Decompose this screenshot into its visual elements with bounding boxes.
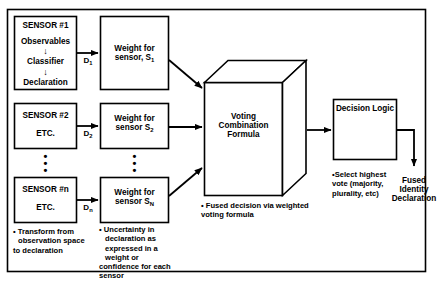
sensor-n-title: SENSOR #n — [15, 185, 76, 194]
arrow-weight-n-to-fusion — [169, 168, 202, 196]
fusion-line-1: Voting — [205, 112, 282, 121]
note-uncertainty-bullet: • — [99, 225, 102, 234]
weight-2-line-1: Weight for — [101, 114, 168, 123]
note-transform-line-3: to declaration — [13, 246, 63, 255]
sensor-n-content: SENSOR #n ETC. — [15, 185, 76, 212]
note-select-line-1: Select highest — [335, 170, 386, 179]
arrow-weight-1-to-fusion — [169, 60, 202, 88]
note-uncertainty-line-1: Uncertainty in — [104, 225, 155, 234]
weight-n-line-1: Weight for — [101, 188, 168, 197]
note-select-line-3: plurality, etc) — [332, 189, 379, 198]
note-uncertainty: • Uncertainty in declaration as expresse… — [99, 225, 194, 281]
note-transform-line-2: observation space — [13, 236, 85, 245]
arrow-decision-logic-to-output — [397, 130, 414, 166]
weight-1-line-1: Weight for — [101, 44, 168, 53]
fusion-line-2: Combination — [205, 121, 282, 130]
sensor-1-line-3: Declaration — [15, 78, 76, 87]
sensor-1-line-2: Classifier — [15, 57, 76, 66]
note-select-highest: •Select highest vote (majority, pluralit… — [332, 170, 404, 198]
note-fused-line-2: voting formula — [201, 210, 254, 219]
down-arrow-icon-2: ↓ — [15, 68, 76, 77]
down-arrow-icon: ↓ — [15, 47, 76, 56]
sensor-2-line-1: ETC. — [15, 129, 76, 138]
signal-label-d1: D1 — [79, 56, 97, 65]
note-transform-bullet: • — [13, 227, 16, 236]
sensor-2-content: SENSOR #2 ETC. — [15, 111, 76, 138]
fusion-line-3: Formula — [205, 130, 282, 139]
sensor-1-line-1: Observables — [15, 37, 76, 46]
note-fused-bullet: • — [201, 201, 204, 210]
note-uncertainty-line-2: declaration as — [99, 234, 156, 243]
weight-n-content: Weight for sensor SN — [101, 188, 168, 206]
note-transform-line-1: Transform from — [18, 227, 74, 236]
note-uncertainty-line-3: expressed in a — [99, 244, 158, 253]
sensor-n-line-1: ETC. — [15, 203, 76, 212]
signal-label-dn: Dn — [79, 203, 97, 212]
sensor-1-content: SENSOR #1 Observables ↓ Classifier ↓ Dec… — [15, 21, 76, 87]
ellipsis-sensors: ••• — [33, 153, 58, 173]
weight-2-content: Weight for sensor S2 — [101, 114, 168, 132]
note-uncertainty-line-4: weight or — [99, 253, 139, 262]
weight-n-line-2: sensor SN — [101, 197, 168, 206]
signal-label-d2: D2 — [79, 129, 97, 138]
decision-logic-label: Decision Logic — [334, 104, 396, 113]
fusion-right-face — [283, 61, 307, 196]
note-transform: • Transform from observation space to de… — [13, 227, 98, 255]
note-fused-line-1: Fused decision via weighted — [206, 201, 309, 210]
note-select-line-2: vote (majority, — [332, 179, 383, 188]
weight-1-content: Weight for sensor, S1 — [101, 44, 168, 62]
weight-2-line-2: sensor S2 — [101, 123, 168, 132]
note-uncertainty-line-5: confidence for each — [99, 262, 171, 271]
ellipsis-weights: ••• — [122, 153, 147, 173]
sensor-2-title: SENSOR #2 — [15, 111, 76, 120]
weight-1-line-2: sensor, S1 — [101, 53, 168, 62]
note-fused-decision: • Fused decision via weighted voting for… — [201, 201, 331, 220]
fusion-block-label: Voting Combination Formula — [205, 112, 282, 140]
note-uncertainty-line-6: sensor — [99, 271, 124, 280]
sensor-1-title: SENSOR #1 — [15, 21, 76, 30]
